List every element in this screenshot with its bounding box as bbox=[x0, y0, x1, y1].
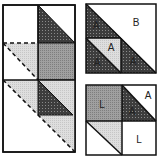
bottom-right-block: L A A L bbox=[86, 85, 156, 155]
label-a: A bbox=[130, 56, 137, 67]
label-l: L bbox=[136, 134, 142, 145]
label-a: A bbox=[129, 106, 136, 117]
medium-square bbox=[38, 43, 75, 80]
label-a: A bbox=[108, 42, 115, 53]
label-a: A bbox=[93, 20, 100, 31]
quilt-diagram: B A A A A L A A L bbox=[0, 0, 160, 160]
label-a: A bbox=[145, 90, 152, 101]
left-panel bbox=[3, 5, 75, 152]
label-l: L bbox=[99, 99, 105, 110]
label-b: B bbox=[133, 17, 140, 28]
top-right-block: B A A A A bbox=[86, 4, 156, 73]
label-a: A bbox=[94, 57, 101, 68]
